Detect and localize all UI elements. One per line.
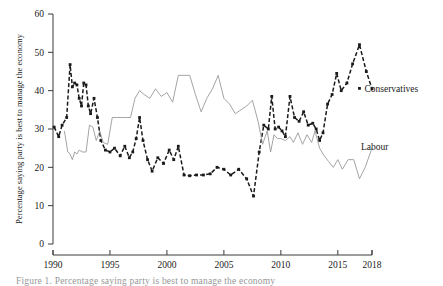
series-layer [53, 43, 374, 197]
series-marker-conservatives [131, 151, 134, 154]
x-tick-label: 2005 [214, 260, 233, 270]
series-marker-conservatives [258, 151, 261, 154]
series-marker-conservatives [326, 103, 329, 106]
series-marker-conservatives [267, 128, 270, 131]
y-tick-label: 60 [35, 9, 45, 19]
series-label-conservatives: Conservatives [364, 84, 418, 94]
series-marker-conservatives [346, 82, 349, 85]
series-marker-conservatives [87, 105, 90, 108]
series-marker-conservatives [335, 72, 338, 75]
x-tick-label: 1990 [44, 260, 63, 270]
y-tick-label: 0 [39, 239, 44, 249]
series-marker-conservatives [156, 156, 159, 159]
series-marker-conservatives [151, 170, 154, 173]
series-marker-conservatives [318, 139, 321, 142]
x-axis-ticks: 1990199520002005201020152018 [44, 250, 382, 270]
series-marker-conservatives [202, 174, 205, 177]
y-axis-ticks: 0102030405060 [35, 9, 54, 249]
series-marker-conservatives [302, 110, 305, 113]
series-marker-conservatives [142, 139, 145, 142]
series-marker-conservatives [252, 195, 255, 198]
series-marker-conservatives [281, 130, 284, 133]
series-marker-conservatives [229, 174, 232, 177]
y-tick-label: 10 [35, 201, 45, 211]
series-label-marker-conservatives [358, 87, 361, 90]
series-marker-conservatives [85, 84, 88, 87]
series-marker-conservatives [61, 124, 64, 127]
series-marker-conservatives [78, 97, 81, 100]
series-marker-conservatives [76, 84, 79, 87]
series-marker-conservatives [237, 168, 240, 171]
series-line-conservatives [54, 45, 372, 196]
series-marker-conservatives [93, 97, 96, 100]
y-axis-label-text: Percentage saying party is best to manag… [14, 33, 24, 224]
series-marker-conservatives [168, 149, 171, 152]
x-tick-label: 2010 [271, 260, 290, 270]
series-marker-conservatives [96, 116, 99, 119]
series-marker-conservatives [80, 105, 83, 108]
series-marker-conservatives [284, 135, 287, 138]
series-marker-conservatives [311, 122, 314, 125]
x-tick-label: 1995 [100, 260, 119, 270]
series-marker-conservatives [209, 172, 212, 175]
series-label-labour: Labour [361, 142, 389, 152]
series-marker-conservatives [123, 145, 126, 148]
x-tick-label: 2015 [328, 260, 347, 270]
series-marker-conservatives [128, 156, 131, 159]
series-marker-conservatives [298, 120, 301, 123]
series-marker-conservatives [277, 126, 280, 129]
series-marker-conservatives [188, 174, 191, 177]
series-marker-conservatives [177, 145, 180, 148]
series-marker-conservatives [113, 147, 116, 150]
series-marker-conservatives [119, 154, 122, 157]
series-marker-conservatives [135, 137, 138, 140]
series-marker-conservatives [270, 95, 273, 98]
series-marker-conservatives [245, 177, 248, 180]
series-marker-conservatives [195, 174, 198, 177]
y-tick-label: 40 [35, 86, 45, 96]
series-marker-conservatives [262, 124, 265, 127]
series-marker-conservatives [138, 116, 141, 119]
series-marker-conservatives [183, 174, 186, 177]
series-marker-conservatives [222, 168, 225, 171]
series-marker-conservatives [331, 93, 334, 96]
series-inline-labels: ConservativesLabour [358, 84, 419, 152]
series-marker-conservatives [104, 149, 107, 152]
series-marker-conservatives [358, 43, 361, 46]
x-tick-label: 2018 [363, 260, 382, 270]
series-marker-conservatives [71, 85, 74, 88]
series-marker-conservatives [162, 162, 165, 165]
series-line-labour [64, 75, 372, 179]
series-marker-conservatives [340, 89, 343, 92]
series-marker-conservatives [57, 135, 60, 138]
series-marker-conservatives [216, 166, 219, 169]
series-marker-conservatives [69, 63, 72, 66]
series-marker-conservatives [293, 116, 296, 119]
series-marker-conservatives [172, 158, 175, 161]
series-marker-conservatives [307, 124, 310, 127]
series-marker-conservatives [289, 95, 292, 98]
series-marker-conservatives [322, 131, 325, 134]
y-tick-label: 30 [35, 124, 45, 134]
series-marker-conservatives [365, 70, 368, 73]
series-marker-conservatives [89, 112, 92, 115]
y-tick-label: 50 [35, 48, 45, 58]
series-marker-conservatives [315, 128, 318, 131]
series-marker-conservatives [109, 151, 112, 154]
series-marker-conservatives [146, 158, 149, 161]
x-tick-label: 2000 [157, 260, 176, 270]
y-axis-label: Percentage saying party is best to manag… [14, 33, 24, 224]
y-tick-label: 20 [35, 163, 45, 173]
series-marker-conservatives [274, 128, 277, 131]
series-marker-conservatives [65, 116, 68, 119]
series-marker-conservatives [53, 126, 56, 129]
series-marker-conservatives [351, 62, 354, 65]
figure-caption: Figure 1. Percentage saying party is bes… [16, 276, 275, 286]
